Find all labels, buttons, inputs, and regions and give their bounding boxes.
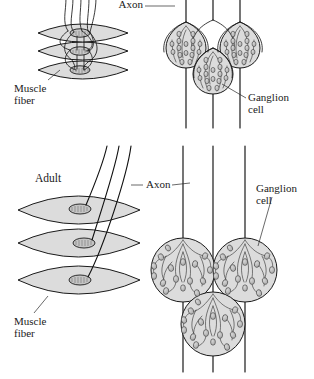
muscle-fiber-label-line1: Muscle: [14, 315, 47, 327]
axon-label: Axon: [146, 178, 171, 190]
muscle-fiber-label-line2: fiber: [14, 94, 35, 106]
muscle-fiber-label-line2: fiber: [14, 327, 35, 339]
adult-stage-label: Adult: [35, 172, 62, 184]
ganglion-cell-label-line2: cell: [248, 103, 264, 115]
developmental-innervation-diagram: Axon Muscle fiber Ganglion cell Adult: [0, 0, 314, 379]
ganglion-cell: [213, 238, 277, 302]
ganglion-cell-label-line2: cell: [256, 194, 272, 206]
ganglion-cell-label-line1: Ganglion: [248, 91, 289, 103]
figure-root: Axon Muscle fiber Ganglion cell Adult: [0, 0, 314, 379]
endplate: [69, 204, 91, 214]
ganglion-cell: [151, 238, 215, 302]
ganglion-cell: [181, 292, 245, 356]
axon-label: Axon: [119, 0, 144, 10]
muscle-fiber-label-line1: Muscle: [14, 82, 47, 94]
ganglion-cell-label-line1: Ganglion: [256, 182, 297, 194]
